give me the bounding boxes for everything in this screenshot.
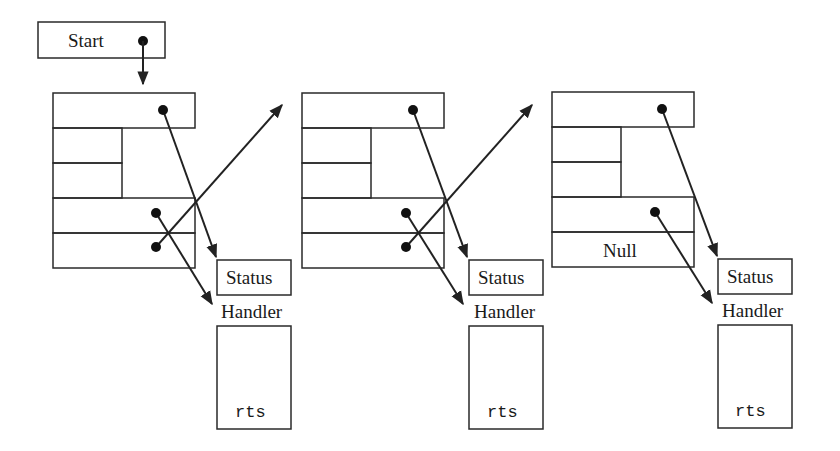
routine-rts-2: rts: [487, 404, 518, 421]
status-pointer-arrow-1: [163, 110, 216, 257]
routine-rts-3: rts: [735, 403, 766, 420]
null-field-label: Null: [603, 241, 637, 260]
handler-pointer-arrow-2: [406, 213, 463, 304]
handler-label-2: Handler: [474, 302, 535, 321]
frame-1-record: [53, 93, 291, 429]
pointer-dot-icon: [408, 105, 418, 115]
status-label-1: Status: [226, 268, 272, 287]
pointer-dot-icon: [401, 242, 411, 252]
pointer-dot-icon: [158, 105, 168, 115]
start-label: Start: [68, 31, 104, 50]
handler-pointer-arrow-3: [655, 212, 712, 303]
frame-3-record: [552, 92, 792, 428]
pointer-dot-icon: [151, 208, 161, 218]
status-label-3: Status: [727, 267, 773, 286]
pointer-dot-icon: [650, 207, 660, 217]
frame-2-record: [302, 93, 543, 429]
status-pointer-arrow-2: [413, 110, 467, 257]
linked-frames-diagram: [0, 0, 840, 451]
next-pointer-arrow-2: [406, 105, 532, 247]
handler-pointer-arrow-1: [156, 213, 212, 304]
pointer-dot-icon: [657, 104, 667, 114]
status-label-2: Status: [478, 268, 524, 287]
pointer-dot-icon: [401, 208, 411, 218]
handler-label-1: Handler: [221, 302, 282, 321]
routine-rts-1: rts: [235, 404, 266, 421]
next-pointer-arrow-1: [156, 105, 282, 247]
status-pointer-arrow-3: [662, 109, 717, 256]
pointer-dot-icon: [151, 242, 161, 252]
handler-label-3: Handler: [722, 301, 783, 320]
